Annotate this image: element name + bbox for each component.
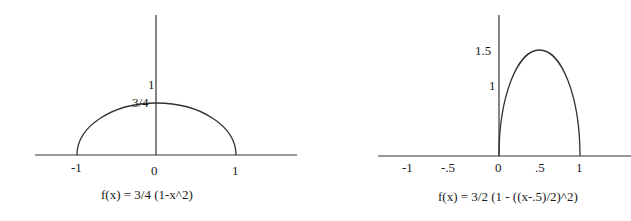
right-y-label-peak: 1.5 xyxy=(475,43,491,58)
left-chart: 1 3/4 -1 0 1 f(x) = 3/4 (1-x^2) xyxy=(35,15,297,202)
right-x-tick-1: 1 xyxy=(576,160,583,175)
right-y-label-one: 1 xyxy=(489,78,496,93)
right-x-tick-05: .5 xyxy=(535,160,545,175)
right-x-tick-neg1: -1 xyxy=(402,160,413,175)
left-x-tick-1: 1 xyxy=(232,163,239,178)
right-curve xyxy=(499,50,580,156)
left-caption: f(x) = 3/4 (1-x^2) xyxy=(101,187,193,202)
figure: 1 3/4 -1 0 1 f(x) = 3/4 (1-x^2) 1.5 1 -1… xyxy=(0,0,631,221)
right-caption: f(x) = 3/2 (1 - ((x-.5)/2)^2) xyxy=(438,189,578,204)
left-x-tick-0: 0 xyxy=(151,163,158,178)
right-x-tick-neg05: -.5 xyxy=(441,160,455,175)
left-y-label-peak: 3/4 xyxy=(132,95,149,110)
right-x-tick-0: 0 xyxy=(495,160,502,175)
left-y-label-one: 1 xyxy=(148,77,155,92)
right-chart: 1.5 1 -1 -.5 0 .5 1 f(x) = 3/2 (1 - ((x-… xyxy=(378,15,631,204)
left-x-tick-neg1: -1 xyxy=(71,160,82,175)
